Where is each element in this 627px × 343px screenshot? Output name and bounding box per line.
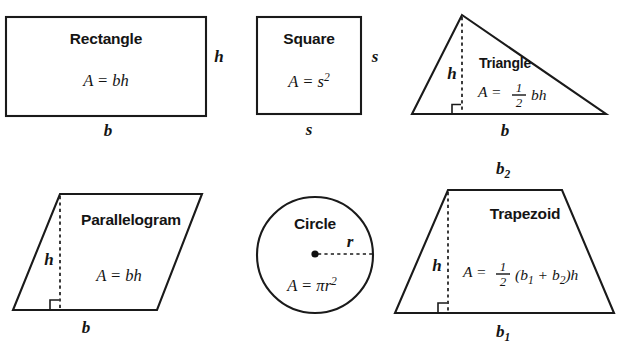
triangle-formula-eq: = bbox=[491, 83, 501, 100]
trapezoid-right-angle-marker bbox=[438, 303, 447, 313]
trapezoid-formula-left: A = bbox=[462, 263, 487, 280]
figure-triangle: h Triangle A = 1 2 bh b bbox=[412, 15, 606, 140]
trapezoid-formula-plus: + bbox=[538, 266, 548, 283]
triangle-fraction-numerator: 1 bbox=[516, 80, 523, 95]
trapezoid-name-label: Trapezoid bbox=[490, 205, 561, 222]
triangle-fraction-denominator: 2 bbox=[516, 95, 523, 110]
figure-trapezoid: b2 h Trapezoid A = 1 2 (b1 + b2)h b1 bbox=[395, 159, 614, 343]
rectangle-name-label: Rectangle bbox=[70, 30, 143, 47]
square-formula-eq: = bbox=[302, 72, 313, 91]
triangle-formula: A = bbox=[477, 83, 502, 100]
figure-square: Square A = s2 s s bbox=[257, 17, 379, 139]
square-side-bottom-label: s bbox=[305, 120, 313, 139]
parallelogram-height-label: h bbox=[44, 250, 53, 269]
circle-name-label: Circle bbox=[294, 215, 336, 232]
figure-svg-canvas: Rectangle A = bh h b Square A = s2 s s h… bbox=[0, 0, 627, 343]
triangle-base-label: b bbox=[501, 121, 510, 140]
circle-formula-eq: = bbox=[301, 276, 312, 295]
trapezoid-fraction-denominator: 2 bbox=[500, 274, 507, 289]
trapezoid-height-label: h bbox=[432, 256, 441, 275]
trapezoid-bottom-base-letter: b bbox=[496, 322, 505, 341]
trapezoid-fraction-numerator: 1 bbox=[500, 259, 507, 274]
parallelogram-right-angle-marker bbox=[50, 300, 59, 310]
parallelogram-base-label: b bbox=[82, 318, 91, 337]
trapezoid-bottom-base-subscript: 1 bbox=[504, 331, 510, 343]
trapezoid-bottom-base-label: b1 bbox=[496, 322, 510, 343]
circle-formula: A = πr2 bbox=[286, 275, 337, 295]
rectangle-height-label: h bbox=[214, 47, 223, 66]
parallelogram-name-label: Parallelogram bbox=[81, 211, 181, 228]
triangle-height-label: h bbox=[447, 64, 456, 83]
rectangle-base-label: b bbox=[104, 121, 113, 140]
triangle-formula-rhs: bh bbox=[531, 86, 547, 103]
square-formula: A = s2 bbox=[287, 71, 330, 91]
trapezoid-formula-right: (b1 + b2)h bbox=[515, 266, 579, 286]
circle-center-dot bbox=[311, 250, 318, 257]
trapezoid-top-base-letter: b bbox=[496, 159, 505, 178]
triangle-name-label: Triangle bbox=[479, 55, 531, 71]
trapezoid-top-base-label: b2 bbox=[496, 159, 511, 180]
triangle-right-angle-marker bbox=[452, 105, 461, 115]
figure-parallelogram: h Parallelogram A = bh b bbox=[13, 194, 202, 337]
square-side-right-label: s bbox=[371, 47, 379, 66]
circle-radius-label: r bbox=[347, 232, 354, 251]
parallelogram-formula-text: A = bh bbox=[95, 266, 142, 285]
parallelogram-formula: A = bh bbox=[95, 266, 142, 285]
figure-circle: Circle r A = πr2 bbox=[257, 197, 373, 313]
circle-formula-exponent: 2 bbox=[331, 275, 337, 287]
geometry-area-formulas-figure: Rectangle A = bh h b Square A = s2 s s h… bbox=[0, 0, 627, 343]
square-formula-exponent: 2 bbox=[324, 71, 330, 83]
trapezoid-formula-height: h bbox=[571, 266, 579, 283]
rectangle-formula: A = bh bbox=[82, 71, 129, 90]
trapezoid-formula-eq: = bbox=[476, 263, 486, 280]
rectangle-formula-text: A = bh bbox=[82, 71, 129, 90]
square-name-label: Square bbox=[283, 30, 335, 47]
figure-rectangle: Rectangle A = bh h b bbox=[6, 17, 224, 140]
trapezoid-top-base-subscript: 2 bbox=[503, 168, 510, 180]
